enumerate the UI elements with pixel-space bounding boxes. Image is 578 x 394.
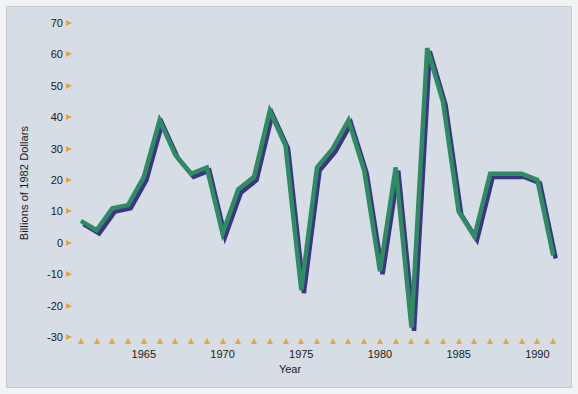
y-tick-label: 20 (7, 174, 63, 186)
x-tick-label: 1970 (210, 348, 234, 360)
y-tick-label: 30 (7, 143, 63, 155)
x-tick-triangle-icon (408, 338, 414, 344)
x-tick-triangle-icon (109, 338, 115, 344)
x-tick-triangle-icon (78, 338, 84, 344)
x-tick-triangle-icon (94, 338, 100, 344)
y-tick-triangle-icon (66, 334, 72, 340)
x-tick-triangle-icon (251, 338, 257, 344)
x-tick-triangle-icon (172, 338, 178, 344)
x-tick-triangle-icon (487, 338, 493, 344)
x-tick-label: 1990 (525, 348, 549, 360)
y-tick-triangle-icon (66, 20, 72, 26)
series-group (81, 48, 556, 331)
y-tick-label: 70 (7, 17, 63, 29)
x-tick-triangle-icon (125, 338, 131, 344)
x-tick-triangle-icon (188, 338, 194, 344)
y-tick-triangle-icon (66, 240, 72, 246)
x-tick-triangle-icon (534, 338, 540, 344)
x-tick-triangle-icon (157, 338, 163, 344)
plot-panel: 706050403020100-10-20-30 196519701975198… (6, 6, 572, 388)
y-tick-label: -20 (7, 300, 63, 312)
y-tick-triangle-icon (66, 51, 72, 57)
x-tick-triangle-icon (298, 338, 304, 344)
x-tick-triangle-icon (267, 338, 273, 344)
chart-figure: 706050403020100-10-20-30 196519701975198… (0, 0, 578, 394)
x-tick-triangle-icon (220, 338, 226, 344)
x-tick-triangle-icon (519, 338, 525, 344)
x-tick-triangle-icon (283, 338, 289, 344)
x-tick-triangle-icon (141, 338, 147, 344)
x-tick-triangle-icon (235, 338, 241, 344)
x-tick-triangle-icon (424, 338, 430, 344)
y-axis-title: Billions of 1982 Dollars (18, 93, 30, 273)
y-tick-label: -10 (7, 268, 63, 280)
plot-inner-area: 706050403020100-10-20-30 196519701975198… (7, 7, 573, 389)
x-tick-label: 1985 (446, 348, 470, 360)
x-tick-triangle-icon (393, 338, 399, 344)
y-tick-triangle-icon (66, 177, 72, 183)
x-tick-triangle-icon (550, 338, 556, 344)
y-tick-triangle-icon (66, 271, 72, 277)
x-tick-label: 1975 (289, 348, 313, 360)
line-chart-svg (7, 7, 573, 389)
x-tick-label: 1965 (132, 348, 156, 360)
y-tick-label: 50 (7, 80, 63, 92)
y-tick-label: 60 (7, 48, 63, 60)
x-tick-triangle-icon (440, 338, 446, 344)
x-tick-triangle-icon (204, 338, 210, 344)
y-tick-triangle-icon (66, 114, 72, 120)
y-tick-triangle-icon (66, 208, 72, 214)
y-tick-label: 10 (7, 205, 63, 217)
y-tick-label: 40 (7, 111, 63, 123)
y-tick-triangle-icon (66, 146, 72, 152)
x-tick-triangle-icon (377, 338, 383, 344)
x-tick-triangle-icon (330, 338, 336, 344)
x-tick-triangle-icon (471, 338, 477, 344)
y-tick-triangle-icon (66, 83, 72, 89)
x-tick-triangle-icon (456, 338, 462, 344)
y-tick-triangle-icon (66, 303, 72, 309)
x-tick-triangle-icon (503, 338, 509, 344)
x-tick-label: 1980 (368, 348, 392, 360)
x-axis-title: Year (7, 363, 573, 375)
y-tick-label: 0 (7, 237, 63, 249)
y-tick-label: -30 (7, 331, 63, 343)
x-tick-triangle-icon (361, 338, 367, 344)
x-tick-triangle-icon (345, 338, 351, 344)
x-tick-triangle-icon (314, 338, 320, 344)
